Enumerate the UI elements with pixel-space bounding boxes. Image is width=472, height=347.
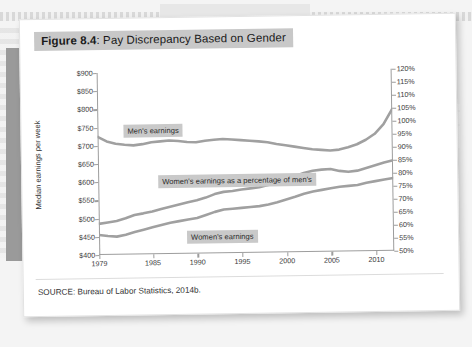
y-axis-left-tick-label: $750 bbox=[59, 123, 93, 133]
x-axis-tick bbox=[332, 252, 333, 256]
chart-series-line bbox=[98, 178, 394, 237]
x-axis-tick bbox=[198, 254, 199, 258]
y-axis-left-tick-label: $600 bbox=[60, 178, 94, 188]
y-axis-right-tick bbox=[392, 95, 396, 96]
chart-container: Median earnings per week $400$450$500$55… bbox=[32, 58, 445, 274]
x-axis-tick bbox=[153, 254, 154, 258]
series-label-mens-earnings: Men's earnings bbox=[123, 124, 182, 137]
y-axis-left-tick bbox=[93, 109, 97, 110]
series-label-womens-earnings: Women's earnings bbox=[187, 230, 258, 244]
y-axis-left-tick-label: $450 bbox=[61, 232, 95, 242]
y-axis-right-tick-label: 110% bbox=[397, 90, 431, 100]
y-axis-left-tick-label: $850 bbox=[59, 87, 93, 97]
y-axis-left-tick bbox=[94, 164, 98, 165]
y-axis-right-tick bbox=[394, 212, 398, 213]
series-label-percentage: Women's earnings as a percentage of men'… bbox=[158, 173, 316, 188]
x-axis-tick bbox=[99, 255, 100, 259]
figure-source-note: SOURCE: Bureau of Labor Statistics, 2014… bbox=[38, 286, 201, 297]
y-axis-right-tick-label: 105% bbox=[397, 103, 431, 113]
x-axis-tick-label: 1995 bbox=[234, 257, 250, 266]
y-axis-left-tick-label: $400 bbox=[61, 251, 95, 261]
y-axis-left-tick bbox=[93, 73, 97, 74]
y-axis-right-tick bbox=[394, 238, 398, 239]
y-axis-right-tick bbox=[394, 199, 398, 200]
y-axis-right-tick-label: 90% bbox=[398, 142, 432, 152]
y-axis-left-tick-label: $500 bbox=[61, 214, 95, 224]
y-axis-right-tick bbox=[392, 82, 396, 83]
y-axis-right-tick bbox=[393, 134, 397, 135]
y-axis-left-tick bbox=[93, 91, 97, 92]
y-axis-right-tick-label: 75% bbox=[398, 181, 432, 191]
y-axis-right-tick-label: 120% bbox=[397, 64, 431, 74]
y-axis-right-tick bbox=[392, 69, 396, 70]
y-axis-left-tick bbox=[93, 128, 97, 129]
y-axis-right-tick-label: 80% bbox=[398, 168, 432, 178]
y-axis-title: Median earnings per week bbox=[33, 120, 43, 209]
y-axis-left-tick bbox=[95, 237, 99, 238]
y-axis-right-tick bbox=[394, 225, 398, 226]
x-axis-tick bbox=[287, 252, 288, 256]
x-axis-tick-label: 1990 bbox=[190, 258, 206, 267]
x-axis-tick bbox=[242, 253, 243, 257]
y-axis-right-tick bbox=[394, 251, 398, 252]
y-axis-right-tick bbox=[393, 147, 397, 148]
figure-number: Figure 8.4 bbox=[41, 34, 97, 47]
x-axis-tick-label: 1985 bbox=[145, 258, 161, 267]
y-axis-right-tick-label: 85% bbox=[398, 155, 432, 165]
y-axis-right-tick bbox=[393, 160, 397, 161]
y-axis-left-tick-label: $700 bbox=[60, 141, 94, 151]
y-axis-right-tick-label: 100% bbox=[397, 116, 431, 126]
x-axis-labels: 1979198519901995200020052010 bbox=[99, 255, 394, 275]
y-axis-right-tick-label: 115% bbox=[397, 77, 431, 87]
figure-title: Figure 8.4: Pay Discrepancy Based on Gen… bbox=[34, 28, 293, 51]
y-axis-right-tick bbox=[393, 173, 397, 174]
x-axis-tick-label: 2010 bbox=[368, 255, 384, 264]
x-axis-tick-label: 1979 bbox=[91, 259, 107, 268]
chart-plot-area bbox=[97, 69, 395, 255]
y-axis-left-tick-label: $900 bbox=[59, 69, 93, 79]
y-axis-left-tick-label: $650 bbox=[60, 160, 94, 170]
x-axis-tick-label: 2000 bbox=[279, 256, 295, 265]
y-axis-right-tick bbox=[392, 108, 396, 109]
y-axis-right-tick bbox=[393, 186, 397, 187]
y-axis-left-tick bbox=[94, 182, 98, 183]
y-axis-left-tick bbox=[94, 146, 98, 147]
figure-divider bbox=[36, 273, 444, 280]
figure-page: Figure 8.4: Pay Discrepancy Based on Gen… bbox=[19, 13, 460, 317]
x-axis-tick bbox=[376, 251, 377, 255]
y-axis-left-tick bbox=[95, 219, 99, 220]
y-axis-right-tick bbox=[392, 121, 396, 122]
y-axis-right-labels: 50%55%60%65%70%75%80%85%90%95%100%105%11… bbox=[397, 68, 440, 251]
chart-series-line bbox=[98, 160, 394, 224]
x-axis-tick-label: 2005 bbox=[324, 256, 340, 265]
y-axis-left-tick-label: $550 bbox=[60, 196, 94, 206]
y-axis-right-tick-label: 50% bbox=[399, 246, 433, 256]
y-axis-right-tick-label: 55% bbox=[399, 233, 433, 243]
y-axis-left-tick bbox=[95, 200, 99, 201]
y-axis-right-tick-label: 70% bbox=[398, 194, 432, 204]
y-axis-left-tick-label: $800 bbox=[59, 105, 93, 115]
y-axis-right-tick-label: 95% bbox=[397, 129, 431, 139]
y-axis-right-tick-label: 60% bbox=[399, 220, 433, 230]
figure-title-text: Pay Discrepancy Based on Gender bbox=[103, 31, 286, 46]
y-axis-left-labels: $400$450$500$550$600$650$700$750$800$850… bbox=[55, 73, 96, 256]
y-axis-right-tick-label: 65% bbox=[399, 207, 433, 217]
